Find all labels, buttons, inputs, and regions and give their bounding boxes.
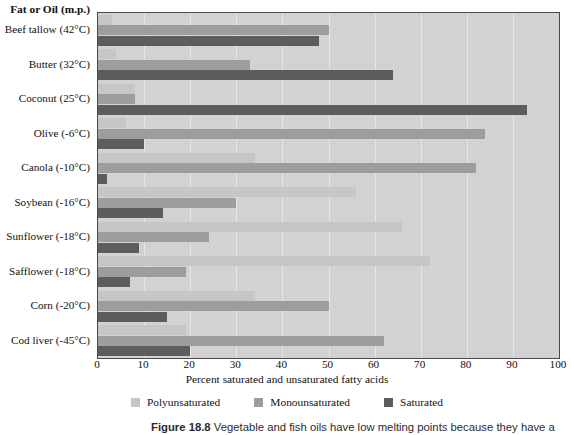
category-label: Corn (-20°C) (0, 299, 90, 311)
bar-sat (98, 243, 139, 253)
category-label: Canola (-10°C) (0, 161, 90, 173)
bar-poly (98, 222, 402, 232)
legend-entry[interactable]: Saturated (384, 396, 443, 408)
x-tick-label: 90 (506, 358, 517, 370)
bar-sat (98, 208, 163, 218)
bar-poly (98, 291, 255, 301)
gridline (375, 13, 376, 358)
bar-poly (98, 49, 116, 59)
bar-sat (98, 174, 107, 184)
legend-entry[interactable]: Monounsaturated (254, 396, 350, 408)
figure-caption-label: Figure 18.8 (151, 421, 211, 433)
bar-poly (98, 256, 430, 266)
figure-caption: Figure 18.8 Vegetable and fish oils have… (151, 421, 574, 434)
bar-mono (98, 198, 236, 208)
x-tick-label: 70 (414, 358, 425, 370)
x-axis-label: Percent saturated and unsaturated fatty … (0, 373, 574, 385)
category-label: Sunflower (-18°C) (0, 230, 90, 242)
bar-sat (98, 70, 393, 80)
legend-entry[interactable]: Polyunsaturated (131, 396, 220, 408)
gridline (513, 13, 514, 358)
x-tick-label: 20 (184, 358, 195, 370)
legend-swatch-icon (384, 398, 393, 407)
bar-mono (98, 94, 135, 104)
x-tick-label: 60 (368, 358, 379, 370)
legend-label: Saturated (400, 396, 443, 408)
bar-poly (98, 187, 356, 197)
category-label: Beef tallow (42°C) (0, 23, 90, 35)
x-tick-label: 100 (550, 358, 567, 370)
gridline (329, 13, 330, 358)
category-label: Olive (-6°C) (0, 127, 90, 139)
bar-sat (98, 105, 527, 115)
bar-mono (98, 336, 384, 346)
bar-mono (98, 301, 329, 311)
gridline (421, 13, 422, 358)
category-column-header: Fat or Oil (m.p.) (0, 3, 90, 15)
legend-label: Monounsaturated (270, 396, 350, 408)
category-label: Butter (32°C) (0, 58, 90, 70)
legend-label: Polyunsaturated (147, 396, 220, 408)
figure-container: Fat or Oil (m.p.) Beef tallow (42°C)Butt… (0, 0, 574, 435)
bar-mono (98, 60, 250, 70)
category-label: Soybean (-16°C) (0, 196, 90, 208)
bar-mono (98, 267, 186, 277)
bar-poly (98, 84, 135, 94)
bar-mono (98, 129, 485, 139)
chart-legend: PolyunsaturatedMonounsaturatedSaturated (0, 396, 574, 408)
x-tick-label: 10 (138, 358, 149, 370)
category-label-column: Fat or Oil (m.p.) Beef tallow (42°C)Butt… (0, 0, 94, 358)
bar-mono (98, 163, 476, 173)
x-tick-label: 0 (94, 358, 100, 370)
gridline (467, 13, 468, 358)
figure-caption-text: Vegetable and fish oils have low melting… (214, 421, 555, 433)
x-axis-ticks: 0102030405060708090100 (97, 358, 558, 374)
gridline (559, 13, 560, 358)
category-label: Safflower (-18°C) (0, 265, 90, 277)
bar-poly (98, 118, 126, 128)
bar-mono (98, 232, 209, 242)
bar-sat (98, 312, 167, 322)
x-tick-label: 80 (460, 358, 471, 370)
bar-sat (98, 36, 319, 46)
legend-swatch-icon (131, 398, 140, 407)
bar-sat (98, 139, 144, 149)
bar-poly (98, 325, 186, 335)
bar-poly (98, 153, 255, 163)
x-tick-label: 50 (322, 358, 333, 370)
category-label: Coconut (25°C) (0, 92, 90, 104)
bar-mono (98, 25, 329, 35)
bar-sat (98, 277, 130, 287)
bar-poly (98, 15, 112, 25)
x-tick-label: 30 (230, 358, 241, 370)
bar-sat (98, 346, 190, 356)
legend-swatch-icon (254, 398, 263, 407)
x-tick-label: 40 (276, 358, 287, 370)
chart-plot-area (97, 12, 560, 359)
category-label: Cod liver (-45°C) (0, 334, 90, 346)
